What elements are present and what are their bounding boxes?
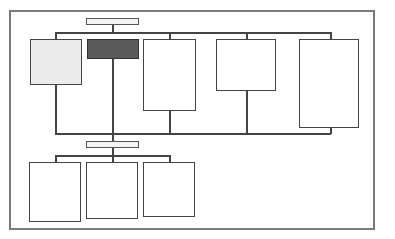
connector-drop-1 [55,32,57,39]
node-l2-3 [143,162,195,217]
node-l1-4 [216,39,276,91]
connector-mid-horizontal [55,133,331,135]
connector-rise-2 [112,59,114,141]
connector-drop-4 [246,32,248,39]
connector-rise-4 [246,91,248,134]
connector-lower-horizontal [55,155,170,157]
node-l2-2 [86,162,138,219]
node-l1-2-selected [87,39,139,59]
connector-lower-drop-1 [55,155,57,162]
node-l1-3 [143,39,196,111]
connector-lower-drop-3 [169,155,171,162]
connector-drop-5 [330,32,332,39]
top-header-bar [86,18,139,25]
middle-header-bar [86,141,139,148]
connector-rise-1 [55,85,57,134]
node-l1-5 [299,39,359,128]
node-l1-1 [30,39,82,85]
connector-top-horizontal [55,32,331,34]
connector-rise-3 [169,111,171,134]
connector-drop-3 [169,32,171,39]
node-l2-1 [29,162,81,222]
